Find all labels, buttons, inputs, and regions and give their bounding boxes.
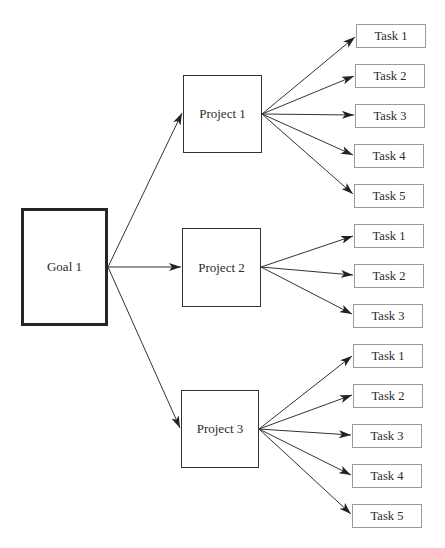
project-1-task-3-node[interactable]: Task 3: [355, 104, 425, 128]
project-2-label: Project 2: [198, 260, 245, 276]
goal-project-task-diagram: Goal 1 Project 1 Task 1 Task 2 Task 3 Ta…: [0, 0, 445, 548]
task-label: Task 1: [372, 349, 405, 364]
task-label: Task 4: [373, 149, 406, 164]
arrow-project-3-to-task-1: [259, 356, 352, 429]
project-1-task-5-node[interactable]: Task 5: [354, 184, 424, 208]
project-1-node[interactable]: Project 1: [183, 75, 262, 153]
arrow-project-1-to-task-5: [262, 114, 353, 194]
arrow-goal-1-to-project-1: [108, 113, 182, 267]
task-label: Task 2: [373, 269, 406, 284]
arrow-project-1-to-task-3: [262, 114, 354, 115]
project-2-task-3-node[interactable]: Task 3: [353, 304, 423, 328]
task-label: Task 3: [372, 309, 405, 324]
project-3-node[interactable]: Project 3: [181, 390, 259, 468]
arrow-project-3-to-task-4: [259, 429, 351, 475]
project-2-node[interactable]: Project 2: [182, 228, 261, 307]
arrow-project-3-to-task-5: [259, 429, 351, 514]
arrow-goal-1-to-project-3: [108, 267, 180, 428]
project-3-task-3-node[interactable]: Task 3: [352, 424, 422, 448]
task-label: Task 1: [373, 229, 406, 244]
task-label: Task 3: [371, 429, 404, 444]
project-2-task-1-node[interactable]: Task 1: [354, 224, 424, 248]
project-3-label: Project 3: [197, 421, 244, 437]
task-label: Task 3: [374, 109, 407, 124]
arrow-project-2-to-task-2: [261, 267, 353, 275]
project-1-task-1-node[interactable]: Task 1: [356, 24, 426, 48]
task-label: Task 4: [371, 469, 404, 484]
project-1-task-4-node[interactable]: Task 4: [354, 144, 424, 168]
arrow-project-3-to-task-2: [259, 395, 352, 429]
arrow-project-3-to-task-3: [259, 429, 351, 435]
project-3-task-5-node[interactable]: Task 5: [352, 504, 422, 528]
arrow-project-2-to-task-1: [261, 236, 353, 267]
task-label: Task 5: [373, 189, 406, 204]
task-label: Task 5: [371, 509, 404, 524]
project-1-label: Project 1: [199, 106, 246, 122]
goal-node[interactable]: Goal 1: [21, 208, 108, 326]
project-3-task-4-node[interactable]: Task 4: [352, 464, 422, 488]
project-3-task-1-node[interactable]: Task 1: [353, 344, 423, 368]
task-label: Task 2: [372, 389, 405, 404]
arrow-project-2-to-task-3: [261, 267, 352, 314]
goal-label: Goal 1: [47, 259, 82, 275]
project-2-task-2-node[interactable]: Task 2: [354, 264, 424, 288]
project-3-task-2-node[interactable]: Task 2: [353, 384, 423, 408]
arrow-project-1-to-task-4: [262, 114, 353, 155]
task-label: Task 2: [374, 69, 407, 84]
project-1-task-2-node[interactable]: Task 2: [355, 64, 425, 88]
task-label: Task 1: [375, 29, 408, 44]
arrow-project-1-to-task-2: [262, 76, 354, 114]
arrow-project-1-to-task-1: [262, 37, 355, 114]
